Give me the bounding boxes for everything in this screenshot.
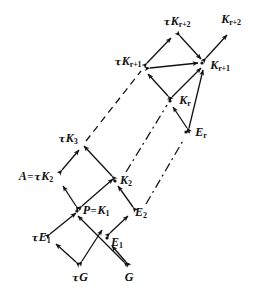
edge-dashdot-K2-Kr bbox=[126, 105, 167, 172]
edge-dashed-tauK3-tauKr1 bbox=[86, 71, 141, 141]
edge-tauKr1-tauKr2 bbox=[147, 38, 171, 63]
node-base: K bbox=[210, 58, 218, 72]
edge-E1-E2 bbox=[110, 216, 128, 233]
node-label-E2: E2 bbox=[135, 206, 147, 220]
node-subscript: 1 bbox=[47, 236, 51, 245]
node-base: G bbox=[79, 270, 88, 284]
node-base-2: K bbox=[97, 203, 105, 217]
vertex-dot-Kr bbox=[168, 99, 171, 102]
node-base: E bbox=[195, 125, 203, 139]
edge-group-dashed bbox=[86, 71, 184, 204]
node-label-AtauK2: A=τK2 bbox=[19, 170, 53, 184]
node-subscript: 1 bbox=[119, 241, 123, 250]
vertex-dot-E1 bbox=[105, 236, 108, 239]
edge-K2-tauK3 bbox=[84, 146, 112, 176]
node-subscript: r+1 bbox=[130, 60, 142, 69]
node-base: G bbox=[125, 270, 134, 284]
node-label-G: G bbox=[125, 271, 134, 283]
vertex-dot-PK1 bbox=[75, 209, 78, 212]
node-subscript: 2 bbox=[143, 211, 147, 220]
node-base: E bbox=[111, 235, 119, 249]
node-label-tauK3: τK3 bbox=[58, 132, 77, 146]
edge-group-upper bbox=[147, 35, 227, 128]
edge-Kr-tauKr1 bbox=[148, 74, 168, 96]
equals-sign: = bbox=[90, 204, 97, 216]
node-base: K bbox=[179, 93, 187, 107]
edge-AtauK2-tauK3 bbox=[62, 150, 79, 170]
node-subscript: r bbox=[203, 131, 206, 140]
node-base: A bbox=[19, 169, 27, 183]
node-base: K bbox=[120, 173, 128, 187]
node-label-tauG: τG bbox=[72, 271, 88, 283]
node-base: K bbox=[221, 12, 229, 26]
node-label-E1: E1 bbox=[111, 236, 123, 250]
diagram-canvas bbox=[0, 0, 258, 295]
edge-tauKr2-Kr1 bbox=[180, 36, 201, 59]
node-base: E bbox=[135, 205, 143, 219]
edge-Kr1-Kr2 bbox=[206, 35, 227, 58]
node-label-tauE1: τE1 bbox=[31, 231, 50, 245]
vertex-dot-Er bbox=[184, 130, 187, 133]
node-label-PK1: P=K1 bbox=[83, 204, 109, 218]
edge-Er-Kr bbox=[173, 107, 187, 128]
edge-PK1-K2 bbox=[82, 179, 113, 206]
vertex-dot-K2 bbox=[113, 179, 116, 182]
commutative-diagram-figure: τKr+2 Kr+2 τKr+1 Kr+1 Kr Er τK3 A=τK2 K2… bbox=[0, 0, 258, 295]
node-subscript: r+1 bbox=[218, 64, 230, 73]
node-label-tauKr1: τKr+1 bbox=[115, 55, 142, 69]
tau-symbol: τ bbox=[34, 171, 41, 182]
node-base-2: K bbox=[41, 169, 49, 183]
node-subscript: 3 bbox=[74, 137, 78, 146]
node-subscript: 2 bbox=[128, 179, 132, 188]
vertex-dot-Kr1 bbox=[200, 61, 203, 64]
edge-PK1-AtauK2 bbox=[63, 186, 76, 206]
node-label-Kr: Kr bbox=[179, 94, 190, 108]
edge-dashdot-E2-Er bbox=[146, 139, 184, 204]
edge-E2-K2 bbox=[118, 186, 133, 207]
edge-tauG-tauE1 bbox=[56, 244, 76, 262]
node-subscript: r+2 bbox=[229, 18, 241, 27]
edge-tauE1-PK1 bbox=[50, 213, 76, 234]
node-subscript: r+2 bbox=[179, 20, 191, 29]
node-label-K2: K2 bbox=[120, 174, 132, 188]
edge-tauKr1-Kr1 bbox=[150, 63, 198, 68]
node-label-Kr1: Kr+1 bbox=[210, 59, 230, 73]
node-label-tauKr2: τKr+2 bbox=[164, 15, 191, 29]
node-subscript: r bbox=[187, 99, 190, 108]
node-label-Kr2: Kr+2 bbox=[221, 13, 241, 27]
node-subscript: 2 bbox=[49, 175, 53, 184]
node-label-Er: Er bbox=[195, 126, 206, 140]
node-subscript: 1 bbox=[105, 209, 109, 218]
edge-tauG-PK1 bbox=[82, 230, 102, 261]
